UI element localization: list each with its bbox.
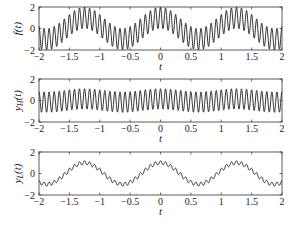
x-tick-label: −0.5 <box>121 196 139 207</box>
x-tick-label: 0.5 <box>185 51 198 62</box>
x-tick-label: 1.5 <box>245 51 258 62</box>
y-axis-label: f(t) <box>11 21 24 35</box>
y-tick-label: 2 <box>30 147 35 158</box>
y-tick-label: 2 <box>30 74 35 85</box>
subplot-1: −2−1.5−1−0.500.511.52−202tf(t) <box>11 2 285 73</box>
signal-line <box>39 161 282 186</box>
x-tick-label: 1 <box>219 123 224 134</box>
subplot-3: −2−1.5−1−0.500.511.52−202tyL(t) <box>11 147 285 218</box>
x-tick-label: 1.5 <box>245 196 258 207</box>
y-tick-label: −2 <box>24 190 35 201</box>
x-tick-label: 2 <box>280 196 285 207</box>
x-tick-label: 2 <box>280 51 285 62</box>
x-tick-label: −1.5 <box>60 123 78 134</box>
x-tick-label: −2 <box>34 123 45 134</box>
x-tick-label: −1.5 <box>60 51 78 62</box>
y-tick-label: 0 <box>30 23 35 34</box>
axes-frame <box>39 152 282 195</box>
figure: −2−1.5−1−0.500.511.52−202tf(t)−2−1.5−1−0… <box>0 0 290 227</box>
y-tick-label: 0 <box>30 95 35 106</box>
y-axis-label: yL(t) <box>11 163 25 184</box>
x-tick-label: −1.5 <box>60 196 78 207</box>
y-tick-label: 2 <box>30 2 35 13</box>
signal-line <box>39 7 282 50</box>
x-tick-label: 1 <box>219 51 224 62</box>
x-tick-label: −2 <box>34 196 45 207</box>
x-tick-label: 0.5 <box>185 196 198 207</box>
x-tick-label: 1.5 <box>245 123 258 134</box>
x-tick-label: 1 <box>219 196 224 207</box>
signal-line <box>39 89 282 113</box>
y-tick-label: −2 <box>24 117 35 128</box>
y-tick-label: 0 <box>30 168 35 179</box>
x-tick-label: −1 <box>94 196 105 207</box>
subplot-2: −2−1.5−1−0.500.511.52−202tyH(t) <box>11 74 285 145</box>
x-tick-label: −2 <box>34 51 45 62</box>
x-tick-label: 0.5 <box>185 123 198 134</box>
x-tick-label: 2 <box>280 123 285 134</box>
y-tick-label: −2 <box>24 45 35 56</box>
x-tick-label: −1 <box>94 51 105 62</box>
x-tick-label: −0.5 <box>121 123 139 134</box>
x-tick-label: −0.5 <box>121 51 139 62</box>
x-tick-label: −1 <box>94 123 105 134</box>
y-axis-label: yH(t) <box>11 90 25 112</box>
